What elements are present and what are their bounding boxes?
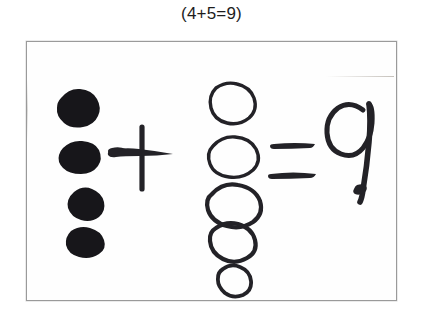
filled-dot-icon bbox=[68, 188, 105, 221]
hollow-circle-icon bbox=[209, 137, 259, 177]
scan-surface: 4 + 5 = 9 bbox=[27, 42, 396, 300]
filled-dot-icon bbox=[66, 227, 105, 258]
hollow-circle-icon bbox=[218, 265, 251, 296]
handwriting-ink-layer bbox=[27, 42, 396, 300]
figure-caption: (4+5=9) bbox=[0, 3, 423, 25]
filled-dots-group bbox=[57, 89, 105, 258]
equals-sign-icon bbox=[268, 143, 316, 179]
hollow-circle-icon bbox=[210, 83, 255, 124]
plus-sign-icon bbox=[108, 127, 173, 189]
filled-dot-icon bbox=[57, 89, 100, 128]
filled-dot-icon bbox=[59, 141, 101, 174]
figure-frame: 4 + 5 = 9 bbox=[26, 41, 397, 301]
hollow-circle-icon bbox=[207, 184, 261, 227]
hollow-circles-group bbox=[207, 83, 261, 297]
answer-digit-icon bbox=[327, 104, 372, 202]
